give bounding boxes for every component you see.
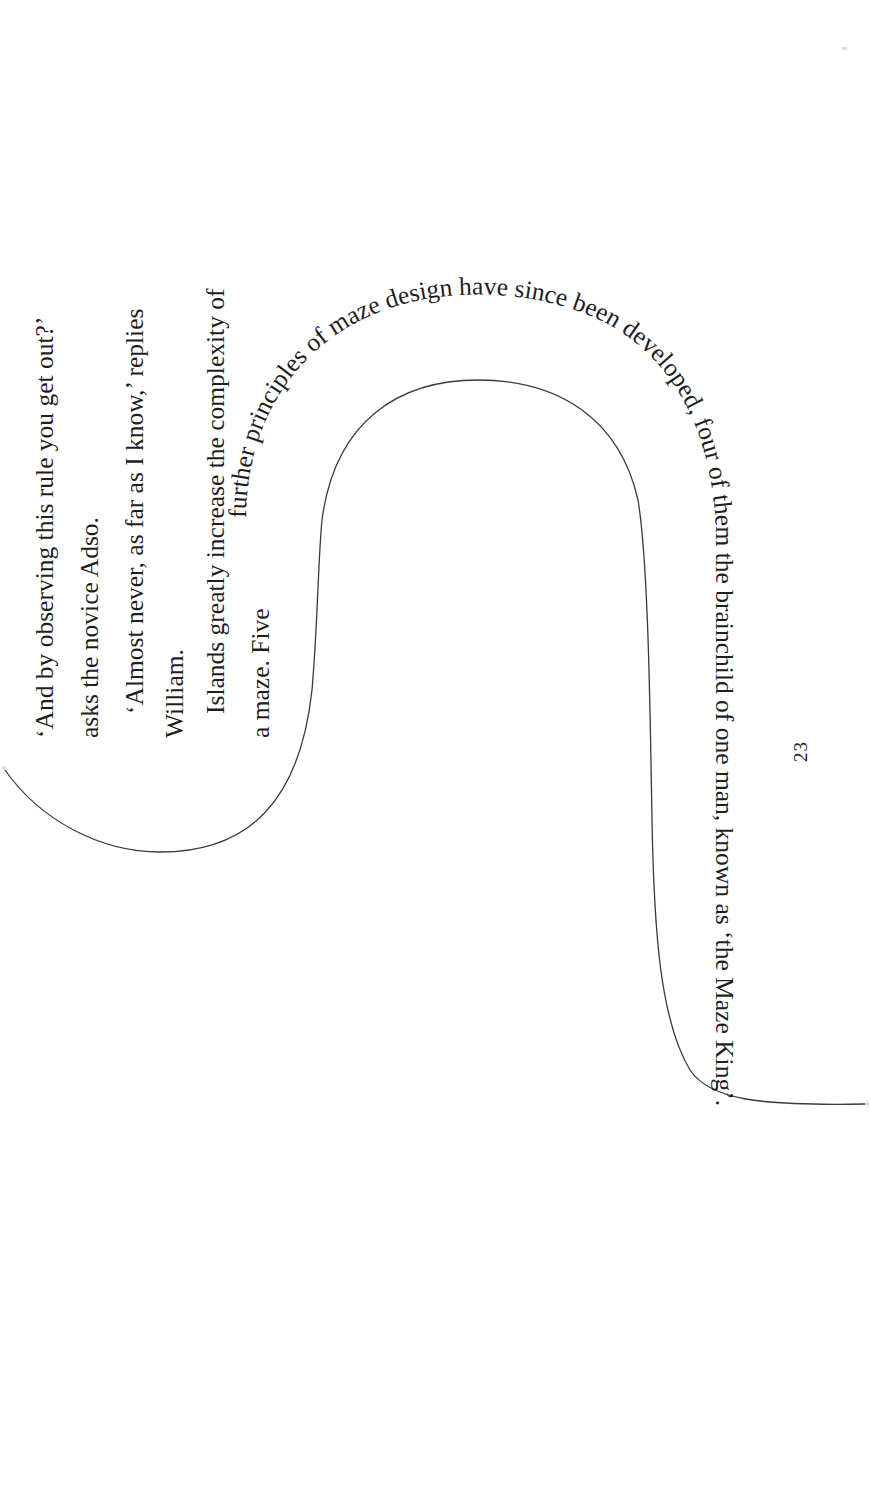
paragraph-block: ‘And by observing this rule you get out?… [22,178,283,738]
text-line-6: a maze. Five [238,178,283,738]
curve-end-mark [865,1102,869,1106]
scan-mark [842,47,847,50]
text-line-1: ‘And by observing this rule you get out?… [22,178,67,738]
page-number: 23 [790,741,812,762]
text-line-5: Islands greatly increase the complexity … [193,178,238,738]
curve-start-mark [2,766,6,770]
text-line-3: ‘Almost never, as far as I know,’ replie… [112,178,157,738]
text-line-2: asks the novice Adso. [67,178,112,738]
curved-sentence-text: further principles of maze design have s… [223,272,739,1107]
curved-sentence: further principles of maze design have s… [223,272,739,1107]
book-page: further principles of maze design have s… [0,0,871,1490]
text-line-4: William. [157,178,193,738]
